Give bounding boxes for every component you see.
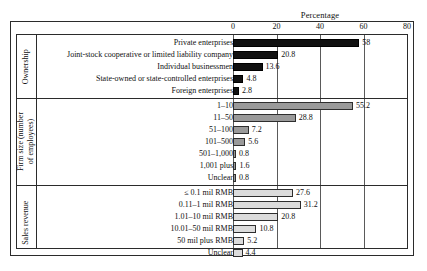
bar-row-label: Unclear [208,247,233,259]
bar-value-label: 13.6 [266,61,280,73]
bar [233,237,244,245]
bar [233,162,236,170]
bar [233,102,353,110]
bar-row-label: 1–10 [217,100,233,112]
bar-value-label: 0.8 [239,172,249,184]
bar [233,150,236,158]
bar-value-label: 27.6 [296,187,310,199]
section-separator [17,98,407,99]
bar-row: 10.01–50 mil RMB10.8 [0,223,427,235]
bar-row: Unclear4.4 [0,247,427,259]
group-axis-label: Firm size (numberof employees) [16,98,36,185]
bar [233,87,239,95]
bar-row: 50 mil plus RMB5.2 [0,235,427,247]
bar [233,189,293,197]
bar-value-label: 10.8 [259,223,273,235]
bar [233,174,236,182]
bar [233,249,243,257]
bar-row-label: Private enterprises [174,37,233,49]
bar-value-label: 20.8 [281,211,295,223]
bar-value-label: 7.2 [252,124,262,136]
section-separator [17,185,407,186]
bar-value-label: 0.8 [239,148,249,160]
x-axis-title: Percentage [231,10,409,20]
bar-row: State-owned or state-controlled enterpri… [0,73,427,85]
bar-row-label: 501–1,000 [199,148,233,160]
bar-row: 11–5028.8 [0,112,427,124]
bar-row-label: 11–50 [213,112,233,124]
bar-value-label: 5.6 [248,136,258,148]
figure-canvas: Percentage 020406080 Private enterprises… [0,0,427,271]
bar [233,225,256,233]
bar-row-label: 51–100 [209,124,233,136]
group-axis-label: Ownership [16,35,36,98]
bar-value-label: 31.2 [304,199,318,211]
bar-value-label: 4.4 [246,247,256,259]
bar-row: Unclear0.8 [0,172,427,184]
bar [233,75,243,83]
bar-row: 1,001 plus1.6 [0,160,427,172]
bar-row-label: 1.01–10 mil RMB [175,211,233,223]
bar-row: 0.11–1 mil RMB31.2 [0,199,427,211]
bar-value-label: 1.6 [239,160,249,172]
bar-row-label: 101–500 [205,136,233,148]
bar-row: Private enterprises58 [0,37,427,49]
bar [233,114,296,122]
bar-row-label: 10.01–50 mil RMB [171,223,233,235]
bar-row: 51–1007.2 [0,124,427,136]
x-axis-tick-labels: 020406080 [0,22,427,33]
bar [233,51,278,59]
bar-row-label: 0.11–1 mil RMB [179,199,233,211]
bar [233,201,301,209]
bar-row: 1.01–10 mil RMB20.8 [0,211,427,223]
bar-value-label: 2.8 [242,85,252,97]
bar-value-label: 58 [362,37,370,49]
bar-row-label: Joint-stock cooperative or limited liabi… [67,49,233,61]
bar-row-label: Unclear [208,172,233,184]
bar-row: Joint-stock cooperative or limited liabi… [0,49,427,61]
bar-row-label: Individual businessmen [157,61,233,73]
bar-row: 1–1055.2 [0,100,427,112]
bar-row-label: ≤ 0.1 mil RMB [184,187,233,199]
bar-row: Foreign enterprises2.8 [0,85,427,97]
bar-row: 101–5005.6 [0,136,427,148]
bar [233,213,278,221]
bar-value-label: 28.8 [299,112,313,124]
bar-row-label: State-owned or state-controlled enterpri… [96,73,233,85]
bar-row: Individual businessmen13.6 [0,61,427,73]
bar-value-label: 4.8 [246,73,256,85]
bar-row-label: Foreign enterprises [171,85,233,97]
bar-value-label: 5.2 [247,235,257,247]
x-tick-label-80: 80 [403,22,411,31]
bar-row: 501–1,0000.8 [0,148,427,160]
x-tick-label-40: 40 [316,22,324,31]
bar-row-label: 1,001 plus [200,160,233,172]
x-tick-label-60: 60 [360,22,368,31]
bar [233,138,245,146]
bar-row-label: 50 mil plus RMB [177,235,233,247]
bar-row: ≤ 0.1 mil RMB27.6 [0,187,427,199]
group-axis-label: Sales revenue [16,185,36,260]
bar [233,63,263,71]
bar-value-label: 55.2 [356,100,370,112]
x-tick-label-0: 0 [231,22,235,31]
bar [233,126,249,134]
bar-value-label: 20.8 [281,49,295,61]
x-tick-label-20: 20 [273,22,281,31]
bar [233,39,359,47]
